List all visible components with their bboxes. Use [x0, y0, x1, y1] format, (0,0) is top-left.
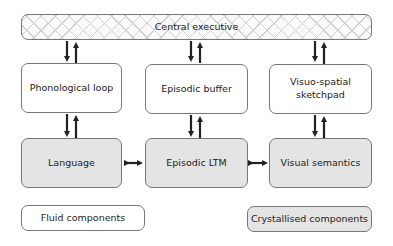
arrows-layer: [0, 0, 393, 246]
